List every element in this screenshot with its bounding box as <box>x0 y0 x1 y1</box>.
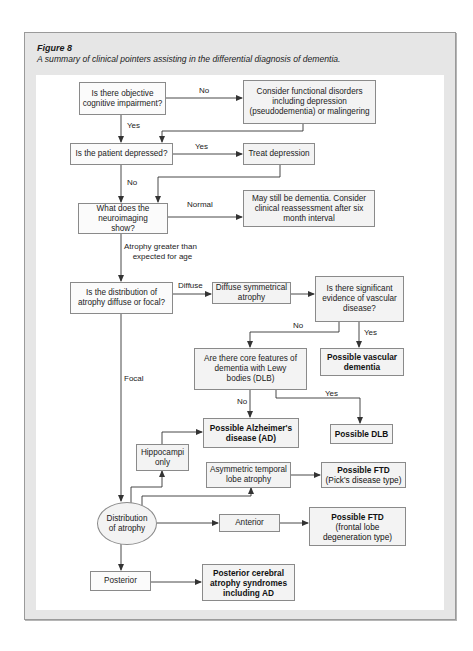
edge-label-yes: Yes <box>195 142 208 152</box>
node-possible-vascular: Possible vascular dementia <box>320 348 404 376</box>
edge-label-focal: Focal <box>124 374 144 384</box>
edge-label-yes: Yes <box>127 121 140 131</box>
node-may-still-be-dementia: May still be dementia. Consider clinical… <box>243 190 375 227</box>
node-posterior: Posterior <box>90 571 151 591</box>
node-treat-depression: Treat depression <box>243 143 315 165</box>
node-possible-dlb: Possible DLB <box>330 424 393 444</box>
node-objective-impairment: Is there objective cognitive impairment? <box>79 82 166 115</box>
node-hippocampi-only: Hippocampi only <box>136 444 189 471</box>
node-functional-disorders: Consider functional disorders including … <box>243 80 376 124</box>
edge-label-no: No <box>237 397 247 407</box>
node-diffuse-symmetrical: Diffuse symmetrical atrophy <box>212 282 291 304</box>
node-anterior: Anterior <box>219 514 280 532</box>
node-asymmetric-temporal: Asymmetric temporal lobe atrophy <box>206 462 291 488</box>
edge-label-normal: Normal <box>187 200 213 210</box>
node-possible-ad: Possible Alzheimer's disease (AD) <box>203 418 299 448</box>
node-vascular-question: Is there significant evidence of vascula… <box>315 276 404 322</box>
node-patient-depressed: Is the patient depressed? <box>70 143 173 165</box>
connectors <box>0 0 473 651</box>
node-distribution-of-atrophy: Distribution of atrophy <box>97 502 157 545</box>
node-distribution-question: Is the distribution of atrophy diffuse o… <box>70 282 173 314</box>
node-dlb-question: Are there core features of dementia with… <box>194 348 307 390</box>
edge-label-no: No <box>199 86 209 96</box>
edge-label-yes: Yes <box>325 389 338 399</box>
edge-label-no: No <box>127 178 137 188</box>
node-ftd-frontal: Possible FTD (frontal lobe degeneration … <box>309 507 406 546</box>
node-posterior-syndromes: Posterior cerebral atrophy syndromes inc… <box>202 564 295 601</box>
node-ftd-picks: Possible FTD (Pick's disease type) <box>321 462 406 488</box>
node-neuroimaging: What does the neuroimaging show? <box>78 203 168 234</box>
edge-label-diffuse: Diffuse <box>178 281 203 291</box>
edge-label-no: No <box>293 321 303 331</box>
edge-label-atrophy: Atrophy greater than expected for age <box>124 242 197 262</box>
edge-label-yes: Yes <box>364 328 377 338</box>
